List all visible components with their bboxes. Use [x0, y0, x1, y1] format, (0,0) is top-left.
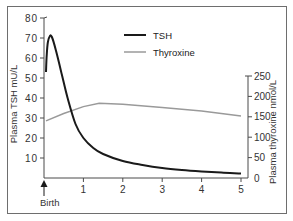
left-tick-label: 30	[25, 113, 38, 124]
x-axis: 12345	[44, 178, 248, 195]
up-arrow-icon	[41, 180, 48, 187]
right-tick-label: 50	[254, 152, 266, 163]
birth-label: Birth	[40, 197, 60, 208]
left-tick-label: 60	[25, 53, 38, 64]
x-tick-label: 1	[81, 184, 87, 195]
x-tick-label: 4	[199, 184, 205, 195]
x-tick-label: 5	[238, 184, 244, 195]
right-axis-title: Plasma thyroxine nmol/L	[267, 80, 278, 184]
left-tick-label: 40	[25, 93, 38, 104]
x-tick-label: 3	[159, 184, 165, 195]
legend-label-tsh: TSH	[153, 30, 172, 41]
left-tick-label: 50	[25, 73, 38, 84]
thyroxine-line	[46, 103, 241, 121]
chart: 1020304050607080 050100150200250 12345 T…	[0, 0, 293, 221]
x-tick-label: 2	[120, 184, 126, 195]
tsh-line	[46, 35, 241, 173]
left-tick-label: 70	[25, 33, 38, 44]
birth-marker: Birth	[40, 180, 60, 208]
legend: TSH Thyroxine	[124, 30, 195, 58]
left-y-axis: 1020304050607080	[25, 13, 47, 179]
left-tick-label: 80	[25, 13, 38, 24]
left-axis-title: Plasma TSH mU/L	[8, 65, 19, 143]
right-tick-label: 0	[254, 173, 260, 184]
legend-label-thyroxine: Thyroxine	[153, 47, 195, 58]
left-tick-label: 20	[25, 133, 38, 144]
right-tick-label: 250	[254, 71, 271, 82]
left-tick-label: 10	[25, 153, 38, 164]
